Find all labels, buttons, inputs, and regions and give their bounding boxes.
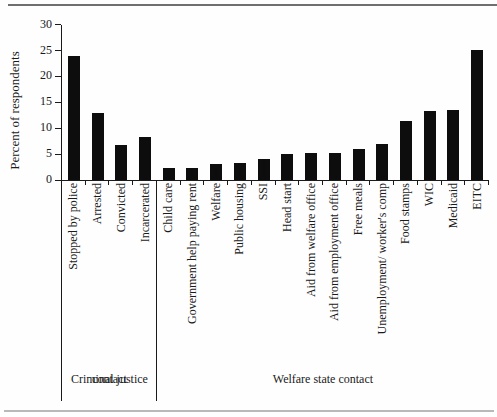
group-label-line: contact [92, 372, 127, 386]
bar [163, 168, 175, 180]
x-category-label: Unemployment/ worker's comp [376, 183, 389, 353]
x-category-label: Head start [281, 183, 294, 353]
bar [115, 145, 127, 180]
x-tick [369, 180, 370, 185]
x-category-label: Child care [162, 183, 175, 353]
y-tick [55, 154, 61, 155]
bar [447, 110, 459, 180]
group-label-line: Welfare state contact [273, 372, 373, 386]
x-tick [132, 180, 133, 185]
bar [258, 159, 270, 180]
y-tick-label: 0 [22, 172, 52, 187]
bar [281, 154, 293, 180]
x-category-label: Medicaid [447, 183, 460, 353]
y-tick-label: 30 [22, 17, 52, 32]
x-tick [346, 180, 347, 185]
x-category-label: Free meals [352, 183, 365, 353]
y-tick-label: 5 [22, 146, 52, 161]
x-category-label: Welfare [210, 183, 223, 353]
x-category-label: EITC [471, 183, 484, 353]
x-category-label: Aid from welfare office [305, 183, 318, 353]
x-tick [275, 180, 276, 185]
bar [92, 113, 104, 180]
group-label: Welfare state contact [157, 360, 489, 398]
x-tick [417, 180, 418, 185]
bar [305, 153, 317, 180]
bar [329, 153, 341, 180]
y-tick [55, 76, 61, 77]
x-category-label: Food stamps [399, 183, 412, 353]
group-label: Criminal justicecontact [62, 360, 157, 398]
x-category-label: Aid from employment office [328, 183, 341, 353]
x-tick [203, 180, 204, 185]
x-category-label: WIC [423, 183, 436, 353]
x-tick [227, 180, 228, 185]
x-tick [441, 180, 442, 185]
bar-chart: 051015202530Stopped by policeArrestedCon… [0, 0, 497, 417]
y-tick-label: 15 [22, 94, 52, 109]
figure: Percent of respondents 051015202530Stopp… [0, 0, 497, 417]
bar [234, 163, 246, 180]
x-category-label: Arrested [91, 183, 104, 353]
bar [68, 56, 80, 180]
y-tick [55, 24, 61, 25]
x-category-label: Convicted [115, 183, 128, 353]
x-category-label: SSI [257, 183, 270, 353]
x-tick [85, 180, 86, 185]
bar [424, 111, 436, 180]
x-category-label: Public housing [233, 183, 246, 353]
x-tick [180, 180, 181, 185]
x-tick [393, 180, 394, 185]
x-tick [108, 180, 109, 185]
y-tick [55, 128, 61, 129]
x-tick [464, 180, 465, 185]
x-category-label: Government help paying rent [186, 183, 199, 353]
bar [139, 137, 151, 180]
y-axis-line [61, 25, 62, 180]
bar [471, 50, 483, 180]
bar [400, 121, 412, 180]
x-category-label: Incarcerated [139, 183, 152, 353]
x-tick [488, 180, 489, 185]
y-tick-label: 25 [22, 43, 52, 58]
y-tick-label: 10 [22, 120, 52, 135]
x-tick [322, 180, 323, 185]
y-tick-label: 20 [22, 68, 52, 83]
y-tick [55, 50, 61, 51]
bottom-rule [4, 410, 494, 412]
bar [353, 149, 365, 180]
y-tick [55, 102, 61, 103]
bar [210, 164, 222, 180]
bar [376, 144, 388, 180]
x-tick [298, 180, 299, 185]
x-category-label: Stopped by police [67, 183, 80, 353]
x-tick [251, 180, 252, 185]
bar [186, 168, 198, 180]
